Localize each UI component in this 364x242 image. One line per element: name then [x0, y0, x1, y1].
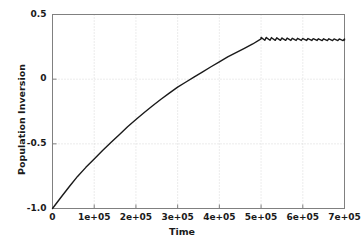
gridlines-group	[53, 15, 345, 209]
x-axis-title: Time	[0, 226, 364, 237]
tick-marks-group	[53, 15, 345, 209]
y-tick-label: 0.5	[3, 9, 47, 19]
y-tick-label: -0.5	[3, 138, 47, 148]
chart-figure: Population Inversion Time 01e+052e+053e+…	[0, 0, 364, 242]
data-series-group	[53, 37, 345, 208]
y-tick-label: 0	[3, 73, 47, 83]
plot-frame	[53, 15, 345, 209]
x-tick-label: 7e+05	[315, 212, 364, 222]
y-tick-label: -1.0	[3, 203, 47, 213]
plot-canvas	[0, 0, 364, 242]
